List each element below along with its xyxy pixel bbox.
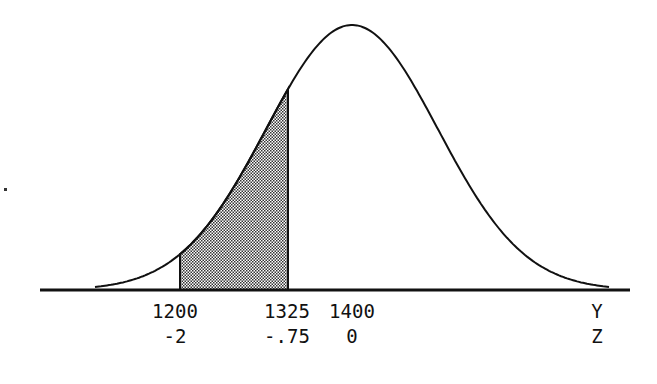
y-tick-label: 1200 xyxy=(152,300,198,322)
z-tick-label: 0 xyxy=(346,325,357,347)
y-tick-label: 1325 xyxy=(264,300,310,322)
y-axis-name: Y xyxy=(591,300,602,322)
stray-mark xyxy=(4,188,7,191)
y-tick-label: 1400 xyxy=(329,300,375,322)
bell-curve-line xyxy=(95,25,609,287)
z-tick-label: -2 xyxy=(164,325,187,347)
normal-curve-plot xyxy=(0,0,657,384)
z-axis-name: Z xyxy=(591,325,602,347)
normal-curve-figure: 120013251400 -2-.750 Y Z xyxy=(0,0,657,384)
z-tick-label: -.75 xyxy=(264,325,310,347)
